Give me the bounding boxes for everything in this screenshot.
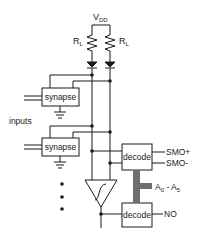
- amplifier-triangle-icon: [85, 180, 117, 207]
- resistor-left-icon: [87, 32, 97, 55]
- synapse-label-1: synapse: [45, 92, 77, 102]
- vdd-label: VDD: [93, 12, 108, 23]
- bus-label: A0 - A5: [155, 182, 181, 193]
- inputs-label: inputs: [9, 116, 32, 126]
- output-no: NO: [164, 209, 177, 219]
- resistor-label-right: RL: [119, 36, 130, 47]
- decode-label-1: decode: [123, 152, 151, 162]
- resistor-right-icon: [105, 32, 115, 55]
- diode-left-icon: [87, 62, 97, 67]
- resistor-label-left: RL: [73, 36, 84, 47]
- output-smo-plus: SMO+: [166, 147, 190, 157]
- vdd-rail: [92, 25, 110, 32]
- diode-right-icon: [105, 62, 115, 67]
- output-smo-minus: SMO-: [166, 158, 188, 168]
- circuit-diagram: VDD RL RL synapse synapse inputs decode …: [0, 0, 200, 238]
- address-bus-icon: [133, 170, 152, 203]
- synapse-label-2: synapse: [45, 142, 77, 152]
- sigmoid-icon: [95, 184, 106, 200]
- ellipsis-dots: [60, 182, 64, 211]
- decode-label-2: decode: [123, 210, 151, 220]
